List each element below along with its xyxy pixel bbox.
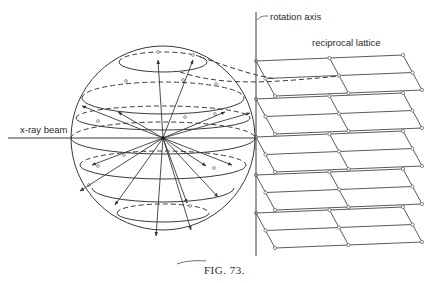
reciprocal-lattice-label: reciprocal lattice — [312, 37, 381, 48]
caption-text: FIG. 73. — [204, 264, 245, 276]
lattice-plane-1 — [254, 53, 423, 97]
x-ray-beam-label: x-ray beam — [20, 124, 68, 135]
rotation-axis-label: rotation axis — [270, 11, 321, 22]
reciprocal-lattice-planes — [254, 53, 423, 249]
figure-caption: FIG. 73. — [177, 261, 245, 276]
rotation-axis — [256, 12, 268, 256]
lattice-plane-4 — [254, 167, 423, 211]
reciprocal-lattice-diagram: rotation axis reciprocal lattice x-ray b… — [0, 0, 431, 283]
lattice-plane-3 — [254, 129, 423, 173]
lattice-plane-5 — [254, 205, 423, 249]
lattice-plane-2 — [254, 91, 423, 135]
x-ray-beam — [8, 136, 256, 140]
